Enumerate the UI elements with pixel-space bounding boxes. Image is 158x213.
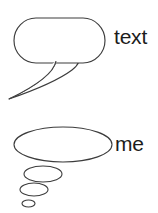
speech-bubble-label: text [114,26,147,47]
thought-bubble-trail-3-icon [22,200,35,207]
thought-bubble-label: me [115,133,144,154]
diagram-canvas: text me [0,0,158,213]
thought-bubble-trail-2-icon [20,183,48,196]
thought-bubble-body-icon [14,127,112,162]
thought-bubble-trail-1-icon [24,166,62,182]
speech-bubble-group [9,18,105,99]
speech-bubble-body-icon [14,18,105,63]
thought-bubble-group [14,127,112,207]
